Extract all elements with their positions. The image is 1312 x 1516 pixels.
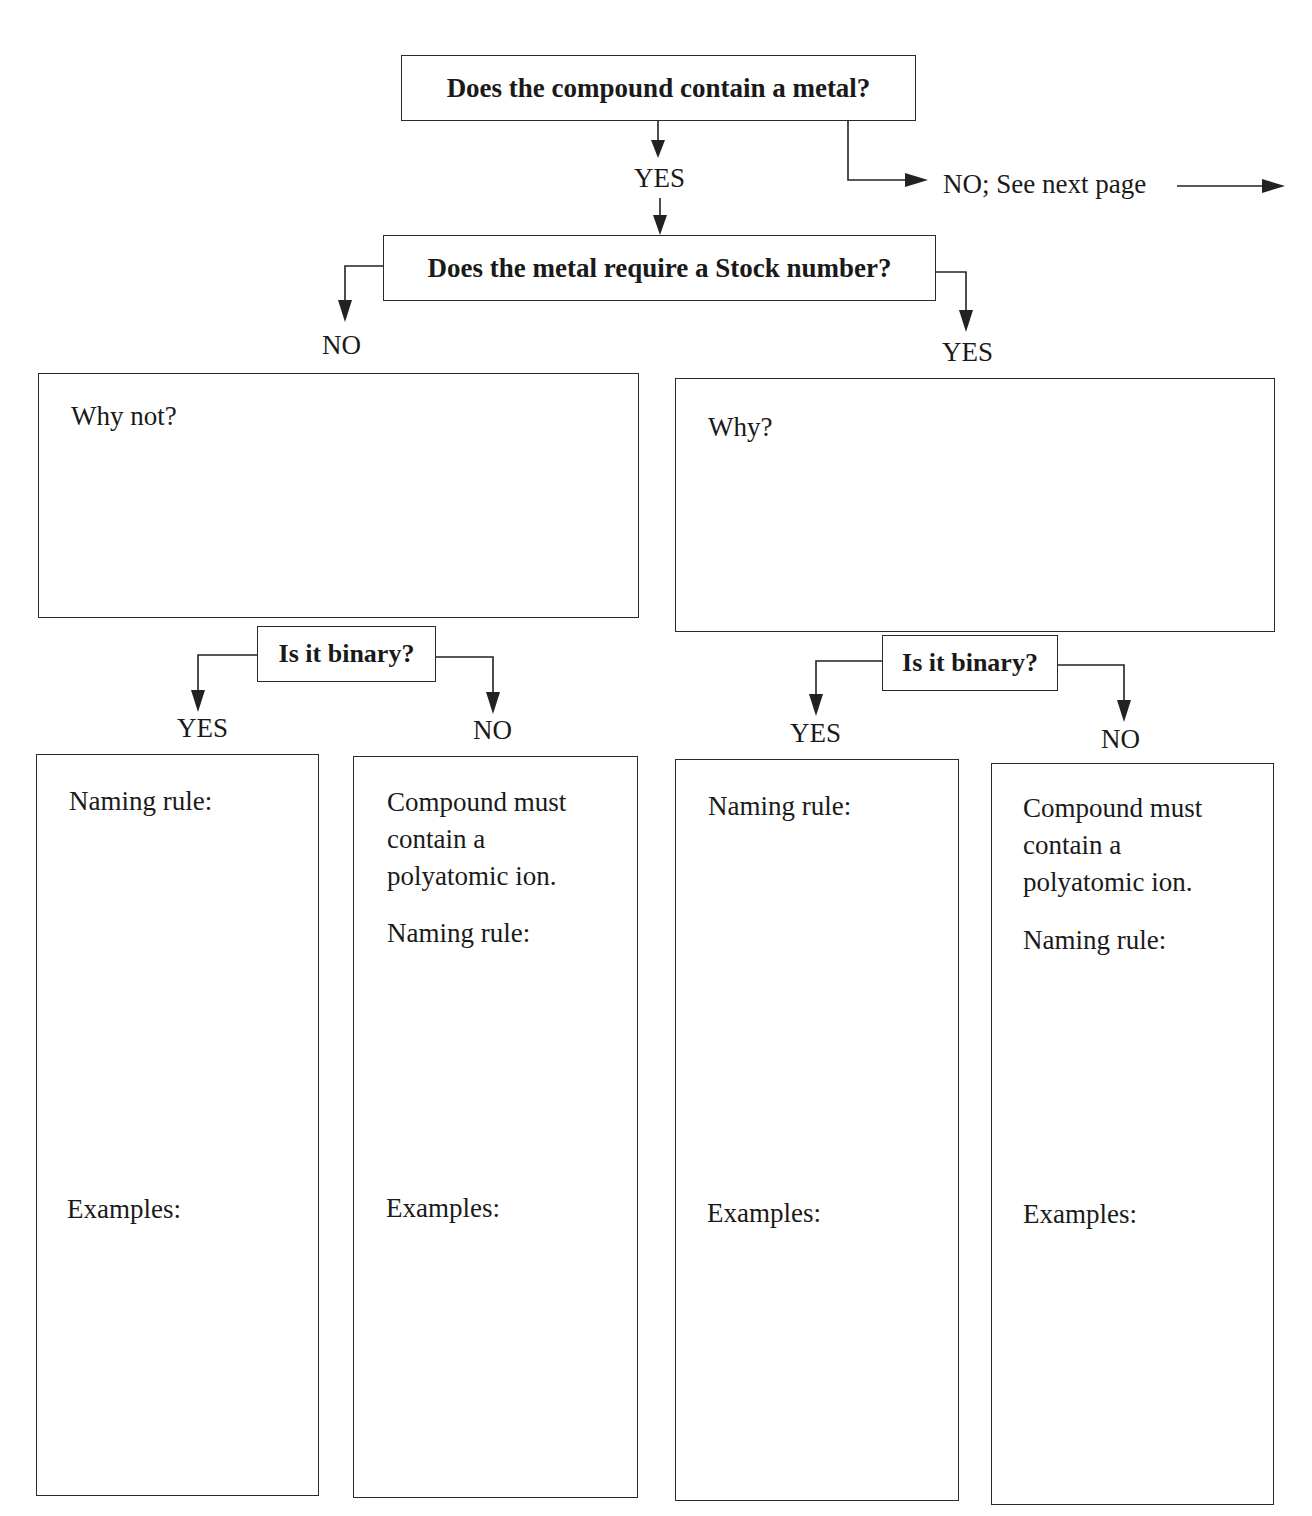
why-not-label: Why not?: [71, 398, 177, 435]
root-question-box: Does the compound contain a metal?: [401, 55, 916, 121]
root-question: Does the compound contain a metal?: [447, 73, 871, 104]
examples-label: Examples:: [67, 1191, 181, 1228]
naming-rule-label: Naming rule:: [69, 783, 212, 820]
why-not-box: Why not?: [38, 373, 639, 618]
right-no-box: Compound must contain a polyatomic ion. …: [991, 763, 1274, 1505]
left-binary-yes-label: YES: [177, 713, 228, 744]
right-binary-no-label: NO: [1101, 724, 1140, 755]
right-binary-question: Is it binary?: [902, 648, 1038, 678]
why-label: Why?: [708, 409, 772, 446]
left-binary-no-label: NO: [473, 715, 512, 746]
stock-question: Does the metal require a Stock number?: [428, 253, 892, 284]
polyatomic-note: Compound must contain a polyatomic ion.: [387, 784, 597, 895]
stock-yes-label: YES: [942, 337, 993, 368]
stock-question-box: Does the metal require a Stock number?: [383, 235, 936, 301]
examples-label: Examples:: [1023, 1196, 1137, 1233]
right-binary-yes-label: YES: [790, 718, 841, 749]
right-binary-box: Is it binary?: [882, 635, 1058, 691]
right-yes-box: Naming rule: Examples:: [675, 759, 959, 1501]
left-binary-question: Is it binary?: [279, 639, 415, 669]
polyatomic-note: Compound must contain a polyatomic ion.: [1023, 790, 1233, 901]
why-box: Why?: [675, 378, 1275, 632]
root-yes-label: YES: [634, 163, 685, 194]
naming-rule-label: Naming rule:: [387, 915, 530, 952]
root-no-label: NO; See next page: [943, 169, 1146, 200]
stock-no-label: NO: [322, 330, 361, 361]
left-no-box: Compound must contain a polyatomic ion. …: [353, 756, 638, 1498]
naming-rule-label: Naming rule:: [708, 788, 851, 825]
left-binary-box: Is it binary?: [257, 626, 436, 682]
left-yes-box: Naming rule: Examples:: [36, 754, 319, 1496]
naming-rule-label: Naming rule:: [1023, 922, 1166, 959]
examples-label: Examples:: [386, 1190, 500, 1227]
examples-label: Examples:: [707, 1195, 821, 1232]
